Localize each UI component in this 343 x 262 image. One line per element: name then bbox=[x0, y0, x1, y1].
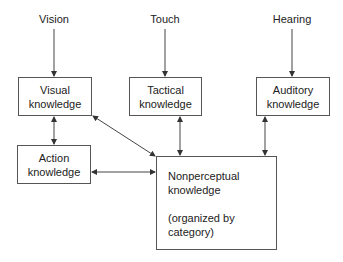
node-label: Action bbox=[28, 151, 81, 165]
node-label: knowledge bbox=[139, 97, 192, 111]
node-visual-knowledge: Visualknowledge bbox=[18, 77, 92, 116]
node-label: Visual bbox=[29, 83, 82, 97]
node-note: category) bbox=[168, 225, 240, 239]
input-label-vision: Vision bbox=[24, 13, 84, 25]
node-note: (organized by bbox=[168, 211, 240, 225]
node-label: Nonperceptual bbox=[168, 169, 240, 183]
node-action-knowledge: Actionknowledge bbox=[17, 145, 91, 184]
input-label-touch: Touch bbox=[135, 13, 195, 25]
node-label: knowledge bbox=[29, 97, 82, 111]
arrow-visual-nonperceptual bbox=[93, 116, 155, 156]
node-label: Auditory bbox=[267, 83, 320, 97]
node-auditory-knowledge: Auditoryknowledge bbox=[256, 77, 330, 116]
node-label: knowledge bbox=[168, 183, 240, 197]
node-label: knowledge bbox=[28, 165, 81, 179]
node-nonperceptual-knowledge: Nonperceptual knowledge (organized by ca… bbox=[156, 156, 277, 250]
node-label: knowledge bbox=[267, 97, 320, 111]
node-tactical-knowledge: Tacticalknowledge bbox=[129, 77, 202, 116]
node-label: Tactical bbox=[139, 83, 192, 97]
diagram-canvas: Vision Touch Hearing Visualknowledge Tac… bbox=[0, 0, 343, 262]
input-label-hearing: Hearing bbox=[262, 13, 322, 25]
